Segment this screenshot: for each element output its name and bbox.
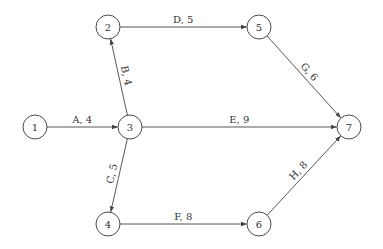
edge-f: F, 8 <box>120 211 247 224</box>
node-label: 1 <box>32 122 38 133</box>
edge-label: E, 9 <box>229 114 249 125</box>
edge-label: C, 5 <box>104 163 119 185</box>
nodes-group: 1234567 <box>23 15 361 236</box>
edge-label: D, 5 <box>173 14 193 25</box>
arrow-line <box>267 36 341 118</box>
node-6: 6 <box>247 212 271 236</box>
node-4: 4 <box>96 212 120 236</box>
edge-label: H, 8 <box>287 159 310 182</box>
edge-b: B, 4 <box>111 39 134 115</box>
edge-label: F, 8 <box>174 211 192 222</box>
edge-label: G, 6 <box>299 61 321 83</box>
edge-c: C, 5 <box>104 139 127 212</box>
edge-h: H, 8 <box>267 136 340 215</box>
edge-e: E, 9 <box>142 114 337 127</box>
edge-g: G, 6 <box>267 36 341 118</box>
node-label: 3 <box>127 122 133 133</box>
arrow-line <box>267 136 340 215</box>
edges-group: A, 4B, 4C, 5D, 5E, 9F, 8G, 6H, 8 <box>47 14 341 224</box>
node-label: 5 <box>256 22 262 33</box>
edge-label: B, 4 <box>119 65 134 87</box>
network-diagram: A, 4B, 4C, 5D, 5E, 9F, 8G, 6H, 8 1234567 <box>0 0 383 249</box>
node-label: 6 <box>256 219 262 230</box>
edge-label: A, 4 <box>71 114 92 125</box>
node-7: 7 <box>337 115 361 139</box>
node-3: 3 <box>118 115 142 139</box>
node-2: 2 <box>96 15 120 39</box>
node-5: 5 <box>247 15 271 39</box>
node-label: 7 <box>346 122 352 133</box>
node-1: 1 <box>23 115 47 139</box>
node-label: 4 <box>105 219 111 230</box>
node-label: 2 <box>105 22 111 33</box>
edge-d: D, 5 <box>120 14 247 27</box>
edge-a: A, 4 <box>47 114 118 127</box>
